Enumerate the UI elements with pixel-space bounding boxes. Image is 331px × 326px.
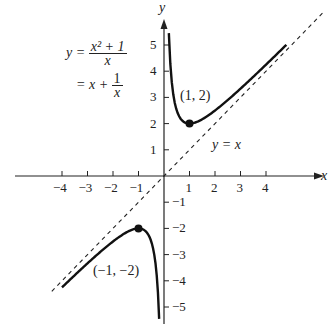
- plot-canvas: [0, 0, 331, 326]
- equation-numerator: x² + 1: [89, 40, 127, 54]
- y-axis-arrow-icon: [161, 19, 168, 29]
- point-max: [135, 224, 143, 232]
- x-tick-label: −1: [130, 180, 144, 196]
- equation-fraction-2: 1 x: [112, 72, 123, 99]
- x-tick-label: 2: [211, 180, 218, 196]
- point-min: [186, 120, 194, 128]
- y-tick-label: 5: [150, 37, 157, 53]
- equation-rhs: = x +: [76, 77, 108, 92]
- y-tick-label: −2: [172, 220, 186, 236]
- x-tick-label: −3: [79, 180, 93, 196]
- curve-positive-branch: [169, 33, 287, 123]
- y-tick-label: −1: [172, 194, 186, 210]
- y-tick-label: 2: [150, 116, 157, 132]
- equation-denominator: x: [89, 54, 127, 67]
- y-axis-label: y: [159, 0, 165, 16]
- x-tick-label: 3: [237, 180, 244, 196]
- equation-lhs: y =: [66, 45, 85, 60]
- equation-line-2: = x + 1 x: [76, 72, 123, 99]
- y-tick-label: 4: [150, 63, 157, 79]
- equation-denominator-2: x: [112, 86, 123, 99]
- y-tick-label: 1: [150, 142, 157, 158]
- point-label-min: (1, 2): [180, 88, 210, 104]
- y-tick-label: −3: [172, 247, 186, 263]
- x-tick-label: −4: [53, 180, 67, 196]
- x-axis-label: x: [321, 168, 327, 184]
- x-tick-label: 4: [262, 180, 269, 196]
- y-tick-label: −4: [172, 273, 186, 289]
- asymptote-label: y = x: [212, 137, 241, 153]
- point-label-max: (−1, −2): [93, 263, 139, 279]
- x-tick-label: −2: [104, 180, 118, 196]
- equation-line-1: y = x² + 1 x: [66, 40, 127, 67]
- y-tick-label: 3: [150, 89, 157, 105]
- x-tick-label: 1: [186, 180, 193, 196]
- y-tick-label: −5: [172, 299, 186, 315]
- equation-numerator-2: 1: [112, 72, 123, 86]
- equation-fraction: x² + 1 x: [89, 40, 127, 67]
